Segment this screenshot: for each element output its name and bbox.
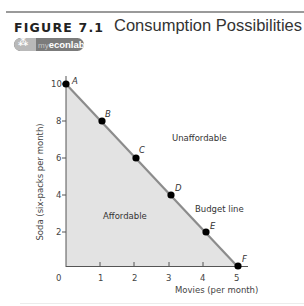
point-label-e: E: [210, 221, 216, 231]
y-tick-4: 4: [56, 190, 61, 200]
x-tick-0: 0: [56, 273, 61, 283]
x-axis-title: Movies (per month): [175, 285, 258, 295]
chart: 10 8 6 4 2 0 1 2 3 4 5 Movies (per month…: [0, 0, 304, 306]
point-a: [62, 80, 69, 87]
point-label-a: A: [71, 76, 78, 86]
point-f: [234, 262, 241, 269]
x-tick-3: 3: [166, 273, 171, 283]
affordable-label: Affordable: [103, 211, 147, 221]
budget-line-label: Budget line: [195, 204, 244, 214]
x-tick-2: 2: [132, 273, 137, 283]
point-e: [202, 228, 209, 235]
point-c: [132, 154, 139, 161]
x-tick-1: 1: [98, 273, 103, 283]
y-tick-8: 8: [56, 116, 61, 126]
y-ticks: [62, 84, 66, 232]
unaffordable-label: Unaffordable: [172, 133, 227, 143]
y-tick-10: 10: [51, 79, 62, 89]
y-axis-title: Soda (six-packs per month): [35, 123, 45, 240]
point-label-f: F: [242, 254, 247, 264]
point-label-b: B: [105, 109, 111, 119]
bottom-rule: [20, 303, 304, 304]
y-tick-6: 6: [56, 153, 61, 163]
x-tick-4: 4: [200, 273, 205, 283]
y-tick-2: 2: [56, 227, 61, 237]
x-tick-5: 5: [234, 273, 239, 283]
point-d: [167, 191, 174, 198]
point-label-d: D: [175, 183, 182, 193]
point-label-c: C: [139, 145, 145, 155]
